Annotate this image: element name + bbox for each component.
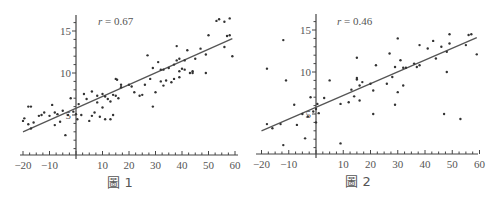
data-point: [194, 58, 196, 60]
data-point: [309, 96, 311, 98]
data-point: [160, 68, 162, 70]
x-tick-label: 10: [97, 159, 109, 171]
data-point: [307, 115, 309, 117]
data-point: [229, 34, 231, 36]
data-point: [339, 142, 341, 144]
data-point: [312, 110, 314, 112]
y-tick-label: 15: [300, 24, 312, 36]
data-point: [358, 99, 360, 101]
data-point: [183, 59, 185, 61]
data-point: [229, 17, 231, 19]
x-tick-label: 10: [338, 158, 350, 170]
data-point: [205, 72, 207, 74]
data-point: [152, 67, 154, 69]
data-point: [64, 134, 66, 136]
data-point: [402, 67, 404, 69]
data-point: [356, 57, 358, 59]
data-point: [165, 79, 167, 81]
data-point: [372, 113, 374, 115]
data-point: [315, 121, 317, 123]
data-point: [191, 72, 193, 74]
x-tick-label: 40: [177, 159, 189, 171]
data-point: [149, 78, 151, 80]
data-point: [435, 57, 437, 59]
data-point: [394, 104, 396, 106]
data-point: [152, 105, 154, 107]
data-point: [56, 113, 58, 115]
data-point: [446, 51, 448, 53]
data-point: [104, 95, 106, 97]
data-point: [353, 95, 355, 97]
data-point: [75, 113, 77, 115]
data-point: [77, 103, 79, 105]
x-tick-label: −10: [280, 158, 298, 170]
data-point: [157, 61, 159, 63]
data-point: [223, 21, 225, 23]
data-point: [112, 114, 114, 116]
data-point: [315, 108, 317, 110]
data-point: [27, 105, 29, 107]
data-point: [54, 124, 56, 126]
data-point: [109, 118, 111, 120]
data-point: [85, 98, 87, 100]
data-point: [266, 123, 268, 125]
data-point: [43, 111, 45, 113]
data-point: [178, 70, 180, 72]
data-point: [133, 91, 135, 93]
data-point: [427, 47, 429, 49]
y-tick-label: 15: [60, 25, 72, 37]
data-point: [101, 106, 103, 108]
x-tick-label: −10: [41, 159, 59, 171]
data-point: [476, 53, 478, 55]
data-point: [30, 105, 32, 107]
data-point: [293, 104, 295, 106]
scatter-chart-2: −20−1010203040506051015r = 0.46圖 2: [253, 14, 486, 189]
data-point: [350, 88, 352, 90]
data-point: [459, 118, 461, 120]
data-point: [318, 112, 320, 114]
data-point: [72, 110, 74, 112]
data-point: [38, 115, 40, 117]
data-point: [173, 78, 175, 80]
data-point: [99, 115, 101, 117]
x-tick-label: 50: [203, 159, 215, 171]
data-point: [178, 58, 180, 60]
figure: −20−1010203040506051015r = 0.67圖 1 −20−1…: [0, 0, 494, 198]
data-point: [80, 114, 82, 116]
data-point: [465, 44, 467, 46]
data-point: [316, 103, 318, 105]
data-point: [176, 59, 178, 61]
data-point: [48, 115, 50, 117]
data-point: [183, 68, 185, 70]
data-point: [91, 90, 93, 92]
data-point: [88, 120, 90, 122]
data-point: [67, 114, 69, 116]
data-point: [470, 33, 472, 35]
data-point: [369, 83, 371, 85]
data-point: [282, 39, 284, 41]
correlation-label: r = 0.67: [98, 15, 134, 27]
data-point: [178, 76, 180, 78]
data-point: [160, 80, 162, 82]
data-point: [101, 93, 103, 95]
data-point: [146, 54, 148, 56]
data-point: [296, 124, 298, 126]
x-tick-label: 20: [124, 159, 136, 171]
data-point: [432, 40, 434, 42]
data-point: [215, 20, 217, 22]
data-point: [361, 81, 363, 83]
data-point: [162, 68, 164, 70]
y-tick-label: 10: [60, 67, 72, 79]
data-point: [413, 62, 415, 64]
data-point: [54, 111, 56, 113]
data-point: [120, 86, 122, 88]
data-point: [115, 94, 117, 96]
data-point: [173, 63, 175, 65]
data-point: [176, 45, 178, 47]
data-point: [128, 84, 130, 86]
data-point: [356, 78, 358, 80]
data-point: [141, 94, 143, 96]
data-point: [348, 101, 350, 103]
data-point: [226, 35, 228, 37]
x-tick-label: 60: [474, 158, 486, 170]
